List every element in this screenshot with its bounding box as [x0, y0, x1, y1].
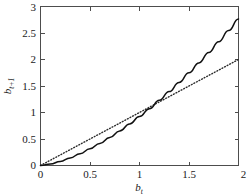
chart-background [0, 0, 247, 194]
y-tick-label-2: 1 [31, 106, 37, 118]
y-tick-label-1: 0.5 [22, 133, 36, 145]
y-tick-label-3: 1.5 [22, 80, 36, 92]
x-tick-label-0: 0 [38, 168, 44, 180]
x-tick-label-2: 1 [137, 168, 143, 180]
chart-figure: 0 0.5 1 1.5 2 0 0.5 1 1.5 2 2.5 3 bt bt+… [0, 0, 247, 194]
chart-plot-area: 0 0.5 1 1.5 2 0 0.5 1 1.5 2 2.5 3 bt bt+… [0, 0, 247, 194]
y-axis-title-sub: t+1 [7, 78, 16, 89]
y-tick-label-4: 2 [31, 53, 37, 65]
x-tick-label-1: 0.5 [83, 168, 97, 180]
x-tick-label-4: 2 [241, 168, 247, 180]
y-tick-label-6: 3 [31, 1, 37, 13]
y-tick-label-5: 2.5 [22, 27, 36, 39]
x-tick-label-3: 1.5 [182, 168, 196, 180]
y-tick-label-0: 0 [31, 159, 37, 171]
